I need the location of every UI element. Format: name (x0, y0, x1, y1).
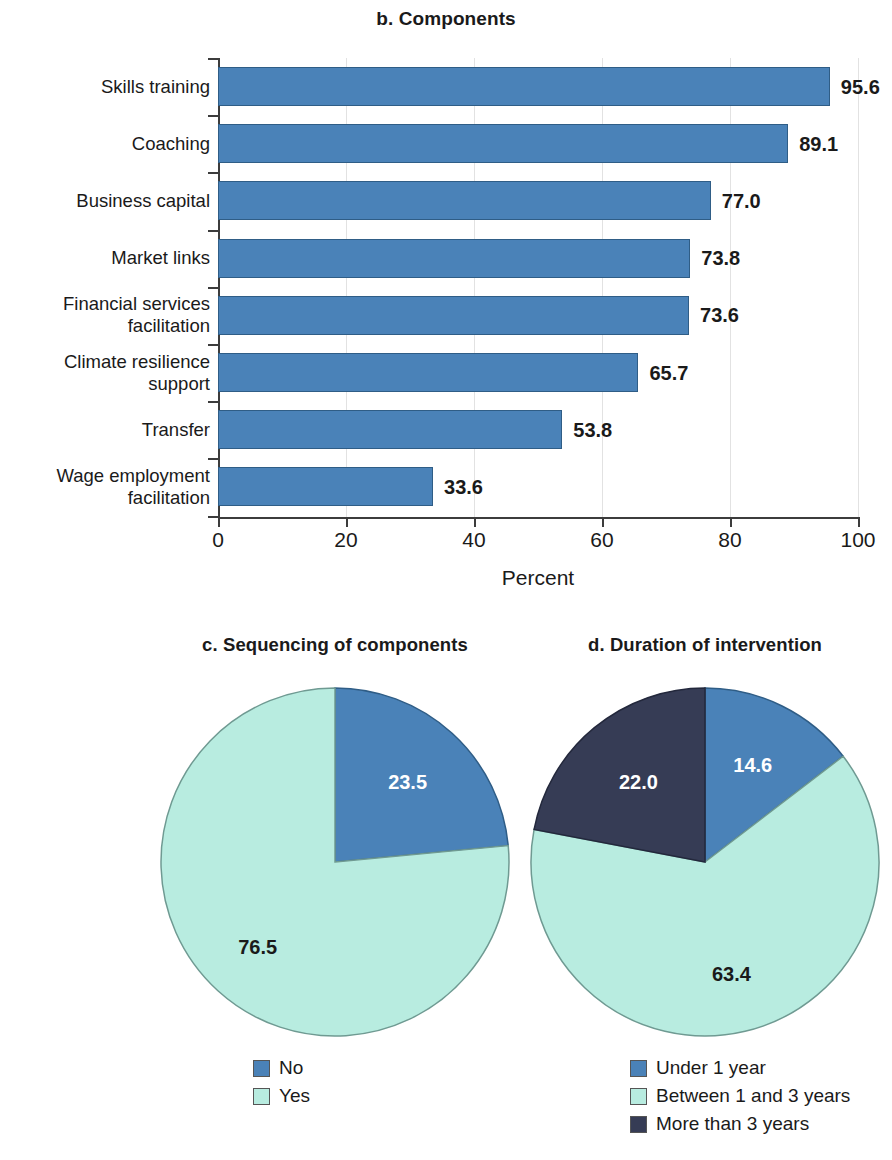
bar-value-label: 53.8 (573, 418, 612, 441)
pie-slice-value-label: 76.5 (238, 935, 277, 958)
bar-value-label: 33.6 (444, 475, 483, 498)
gridline (858, 58, 859, 517)
category-label-line: Coaching (10, 133, 210, 155)
legend-label: More than 3 years (656, 1113, 809, 1135)
bar-chart-x-axis (218, 517, 860, 519)
category-label: Coaching (10, 133, 210, 155)
legend-label: Yes (279, 1085, 310, 1107)
category-label: Market links (10, 247, 210, 269)
y-tick (208, 172, 218, 174)
legend-item[interactable]: No (253, 1054, 310, 1082)
x-tick (474, 517, 476, 527)
pie-slice-value-label: 23.5 (388, 771, 427, 794)
pie-d-title: d. Duration of intervention (505, 634, 892, 656)
x-tick-label: 20 (316, 528, 376, 552)
y-tick (208, 344, 218, 346)
bar-value-label: 73.6 (700, 304, 739, 327)
bar (218, 353, 638, 392)
y-tick (208, 516, 218, 518)
bar (218, 181, 711, 220)
bar-value-label: 73.8 (701, 247, 740, 270)
category-label-line: Wage employment (10, 465, 210, 487)
y-tick (208, 287, 218, 289)
bar (218, 67, 830, 106)
legend-label: No (279, 1057, 303, 1079)
legend-item[interactable]: More than 3 years (630, 1110, 850, 1138)
category-label: Climate resiliencesupport (10, 351, 210, 395)
pie-slice-value-label: 14.6 (733, 754, 772, 777)
legend-swatch (630, 1116, 647, 1133)
category-label: Wage employmentfacilitation (10, 465, 210, 509)
bar (218, 410, 562, 449)
bar-value-label: 65.7 (649, 361, 688, 384)
category-label-line: Financial services (10, 293, 210, 315)
legend-item[interactable]: Between 1 and 3 years (630, 1082, 850, 1110)
x-tick (858, 517, 860, 527)
y-tick (208, 401, 218, 403)
category-label-line: facilitation (10, 487, 210, 509)
y-tick (208, 458, 218, 460)
bar (218, 467, 433, 506)
bar-value-label: 95.6 (841, 75, 880, 98)
components-bar-chart-panel: b. Components Skills trainingCoachingBus… (0, 0, 892, 610)
bar (218, 296, 689, 335)
pie-d-chart (530, 687, 880, 1037)
pie-c-title: c. Sequencing of components (135, 634, 535, 656)
category-label-line: Skills training (10, 76, 210, 98)
bar (218, 239, 690, 278)
category-label: Skills training (10, 76, 210, 98)
x-tick (602, 517, 604, 527)
x-tick (346, 517, 348, 527)
pie-slice-value-label: 22.0 (619, 770, 658, 793)
x-tick-label: 100 (828, 528, 888, 552)
legend-item[interactable]: Yes (253, 1082, 310, 1110)
category-label-line: Business capital (10, 190, 210, 212)
bar-chart-title: b. Components (0, 8, 892, 30)
pie-c-chart (160, 687, 510, 1037)
x-tick (730, 517, 732, 527)
x-tick-label: 60 (572, 528, 632, 552)
bar (218, 124, 788, 163)
category-label: Business capital (10, 190, 210, 212)
x-tick-label: 40 (444, 528, 504, 552)
category-label-line: Transfer (10, 419, 210, 441)
legend-swatch (253, 1088, 270, 1105)
x-tick-label: 0 (188, 528, 248, 552)
legend-swatch (630, 1088, 647, 1105)
legend-swatch (253, 1060, 270, 1077)
pie-d-legend: Under 1 yearBetween 1 and 3 yearsMore th… (630, 1054, 850, 1138)
bar-value-label: 89.1 (799, 132, 838, 155)
legend-label: Between 1 and 3 years (656, 1085, 850, 1107)
category-label-line: Climate resilience (10, 351, 210, 373)
category-label: Transfer (10, 419, 210, 441)
bar-value-label: 77.0 (722, 189, 761, 212)
legend-swatch (630, 1060, 647, 1077)
pie-slice-value-label: 63.4 (712, 962, 751, 985)
y-tick (208, 230, 218, 232)
category-label: Financial servicesfacilitation (10, 293, 210, 337)
x-tick-label: 80 (700, 528, 760, 552)
y-tick (208, 115, 218, 117)
bar-chart-x-axis-title: Percent (218, 566, 858, 590)
legend-item[interactable]: Under 1 year (630, 1054, 850, 1082)
pie-c-legend: NoYes (253, 1054, 310, 1110)
category-label-line: facilitation (10, 315, 210, 337)
category-label-line: support (10, 373, 210, 395)
y-tick (208, 58, 218, 60)
x-tick (218, 517, 220, 527)
category-label-line: Market links (10, 247, 210, 269)
legend-label: Under 1 year (656, 1057, 766, 1079)
